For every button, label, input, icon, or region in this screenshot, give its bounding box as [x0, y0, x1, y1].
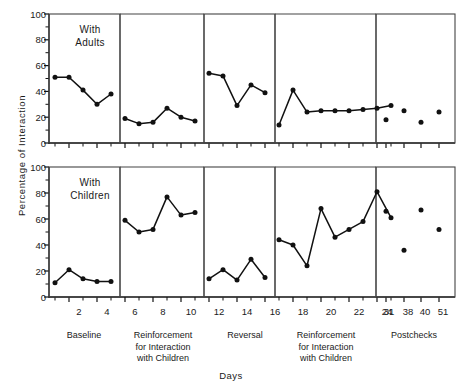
- data-point: [333, 108, 338, 113]
- data-point: [249, 257, 254, 262]
- data-point: [375, 189, 380, 194]
- data-point: [384, 209, 389, 214]
- data-point: [384, 117, 389, 122]
- data-point: [81, 88, 86, 93]
- data-point: [137, 230, 142, 235]
- data-point: [123, 116, 128, 121]
- data-point: [193, 210, 198, 215]
- data-point: [347, 227, 352, 232]
- data-point: [375, 106, 380, 111]
- data-point: [53, 280, 58, 285]
- series-line-panel0-segment3: [279, 90, 391, 125]
- series-line-panel0-segment1: [125, 108, 195, 123]
- data-point: [263, 90, 268, 95]
- data-point: [207, 276, 212, 281]
- data-point: [165, 106, 170, 111]
- data-point: [67, 267, 72, 272]
- data-point: [221, 267, 226, 272]
- data-point: [207, 71, 212, 76]
- series-line-panel1-segment1: [125, 197, 195, 232]
- data-point: [361, 107, 366, 112]
- data-point: [291, 88, 296, 93]
- data-point: [151, 120, 156, 125]
- data-point: [235, 103, 240, 108]
- series-line-panel1-segment2: [209, 259, 265, 280]
- chart-plot-area: [0, 0, 461, 391]
- data-point: [165, 194, 170, 199]
- data-point: [137, 121, 142, 126]
- series-line-panel0-segment2: [209, 73, 265, 105]
- data-point: [305, 263, 310, 268]
- data-point: [389, 215, 394, 220]
- data-point: [95, 102, 100, 107]
- data-point: [277, 122, 282, 127]
- data-point: [419, 120, 424, 125]
- data-point: [179, 213, 184, 218]
- data-point: [277, 237, 282, 242]
- data-point: [109, 279, 114, 284]
- data-point: [437, 227, 442, 232]
- data-point: [67, 75, 72, 80]
- figure-container: Percentage of Interaction 100 80 60 40 2…: [0, 0, 461, 391]
- data-point: [109, 91, 114, 96]
- data-point: [347, 108, 352, 113]
- data-point: [151, 227, 156, 232]
- data-point: [95, 279, 100, 284]
- data-point: [319, 206, 324, 211]
- data-point: [333, 235, 338, 240]
- data-point: [361, 219, 366, 224]
- data-point: [81, 276, 86, 281]
- data-point: [123, 218, 128, 223]
- data-point: [193, 119, 198, 124]
- data-point: [179, 115, 184, 120]
- data-point: [389, 103, 394, 108]
- data-point: [291, 243, 296, 248]
- data-point: [402, 248, 407, 253]
- data-point: [53, 75, 58, 80]
- data-point: [249, 82, 254, 87]
- data-point: [419, 207, 424, 212]
- data-point: [263, 275, 268, 280]
- data-point: [319, 108, 324, 113]
- series-line-panel1-segment3: [279, 192, 391, 266]
- data-point: [221, 73, 226, 78]
- data-point: [402, 108, 407, 113]
- data-point: [437, 110, 442, 115]
- data-point: [305, 110, 310, 115]
- data-point: [235, 278, 240, 283]
